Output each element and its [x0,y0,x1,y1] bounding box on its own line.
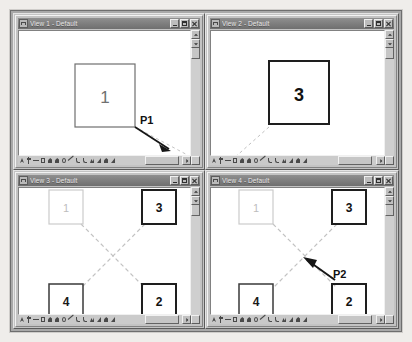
triangle-tool[interactable] [288,316,294,323]
remove-point-tool[interactable] [225,157,231,164]
shade-tool[interactable] [246,316,252,323]
horizontal-scroll-track[interactable] [305,315,376,324]
polyline-tool[interactable] [89,157,95,164]
horizontal-scroll-thumb[interactable] [338,315,372,324]
gradient-tool[interactable] [103,316,109,323]
close-button[interactable] [384,176,393,185]
scroll-down-button[interactable] [385,196,394,205]
titlebar-view-4[interactable]: View 4 - Default [210,175,394,186]
canvas-view-3[interactable]: 1 3 4 2 [18,187,191,315]
titlebar-view-3[interactable]: View 3 - Default [18,175,200,186]
circle-tool[interactable] [61,157,67,164]
curve-tool[interactable] [267,316,273,323]
add-point-tool[interactable] [218,316,224,323]
rectangle-tool[interactable] [40,157,46,164]
curve-tool[interactable] [75,157,81,164]
scroll-up-button[interactable] [191,30,200,39]
canvas-view-4[interactable]: 1 3 4 2 P2 [210,187,385,315]
window-view-1[interactable]: View 1 - Default 1 [13,13,205,170]
scroll-up-button[interactable] [385,187,394,196]
gradient-tool[interactable] [295,157,301,164]
vertical-scrollbar-view-3[interactable] [191,187,200,315]
close-button[interactable] [190,19,199,28]
scroll-right-button[interactable] [376,156,385,165]
line-tool[interactable] [68,157,74,164]
remove-point-tool[interactable] [225,316,231,323]
fill-region-tool[interactable] [239,316,245,323]
measure-tool[interactable] [110,316,116,323]
circle-tool[interactable] [253,157,259,164]
maximize-button[interactable] [180,19,189,28]
remove-point-tool[interactable] [33,316,39,323]
arc-tool[interactable] [82,157,88,164]
scroll-down-button[interactable] [385,39,394,48]
scroll-up-button[interactable] [191,187,200,196]
rectangle-tool[interactable] [232,157,238,164]
arc-tool[interactable] [274,316,280,323]
vertical-scrollbar-view-1[interactable] [191,30,200,156]
minimize-button[interactable] [170,19,179,28]
triangle-tool[interactable] [288,157,294,164]
toolbar-view-4[interactable] [210,315,308,324]
arc-tool[interactable] [82,316,88,323]
horizontal-scroll-track[interactable] [113,156,182,165]
minimize-button[interactable] [364,176,373,185]
window-view-3[interactable]: View 3 - Default 1 [13,170,205,329]
rectangle-tool[interactable] [232,316,238,323]
measure-tool[interactable] [302,157,308,164]
toolbar-view-2[interactable] [210,156,308,165]
horizontal-scroll-thumb[interactable] [338,156,372,165]
select-arrow-tool[interactable] [19,316,25,323]
horizontal-scroll-thumb[interactable] [145,315,179,324]
line-tool[interactable] [260,316,266,323]
select-arrow-tool[interactable] [211,316,217,323]
window-view-2[interactable]: View 2 - Default 3 [205,13,399,170]
scroll-right-button[interactable] [182,315,191,324]
close-button[interactable] [384,19,393,28]
window-view-4[interactable]: View 4 - Default 1 3 [205,170,399,329]
measure-tool[interactable] [110,157,116,164]
minimize-button[interactable] [170,176,179,185]
shade-tool[interactable] [54,316,60,323]
add-point-tool[interactable] [218,157,224,164]
rectangle-tool[interactable] [40,316,46,323]
triangle-tool[interactable] [96,157,102,164]
arc-tool[interactable] [274,157,280,164]
scroll-up-button[interactable] [385,30,394,39]
curve-tool[interactable] [267,157,273,164]
titlebar-view-1[interactable]: View 1 - Default [18,18,200,29]
vertical-scrollbar-view-4[interactable] [385,187,394,315]
select-arrow-tool[interactable] [19,157,25,164]
circle-tool[interactable] [61,316,67,323]
titlebar-view-2[interactable]: View 2 - Default [210,18,394,29]
add-point-tool[interactable] [26,316,32,323]
remove-point-tool[interactable] [33,157,39,164]
scroll-right-button[interactable] [182,156,191,165]
toolbar-view-1[interactable] [18,156,116,165]
fill-region-tool[interactable] [239,157,245,164]
canvas-view-1[interactable]: 1 P1 [18,30,191,156]
horizontal-scroll-track[interactable] [113,315,182,324]
polyline-tool[interactable] [281,157,287,164]
maximize-button[interactable] [180,176,189,185]
fill-region-tool[interactable] [47,157,53,164]
polyline-tool[interactable] [281,316,287,323]
horizontal-scroll-thumb[interactable] [145,156,179,165]
scroll-down-button[interactable] [191,39,200,48]
minimize-button[interactable] [364,19,373,28]
canvas-view-2[interactable]: 3 [210,30,385,156]
curve-tool[interactable] [75,316,81,323]
line-tool[interactable] [260,157,266,164]
select-arrow-tool[interactable] [211,157,217,164]
shade-tool[interactable] [54,157,60,164]
fill-region-tool[interactable] [47,316,53,323]
shade-tool[interactable] [246,157,252,164]
vertical-scrollbar-view-2[interactable] [385,30,394,156]
measure-tool[interactable] [302,316,308,323]
horizontal-scroll-track[interactable] [305,156,376,165]
gradient-tool[interactable] [295,316,301,323]
maximize-button[interactable] [374,176,383,185]
line-tool[interactable] [68,316,74,323]
circle-tool[interactable] [253,316,259,323]
close-button[interactable] [190,176,199,185]
